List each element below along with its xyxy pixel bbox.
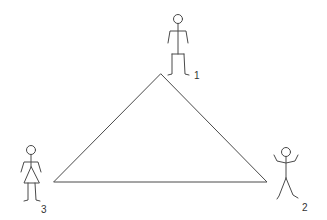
diagram-canvas: 1 2 3 [0, 0, 327, 220]
figure-1-right-leg [184, 54, 189, 75]
figure-2-left-leg [277, 178, 286, 199]
stick-figure-2: 2 [274, 148, 308, 214]
figure-2-head [282, 148, 291, 157]
figure-1-left-leg [168, 54, 172, 75]
stick-figure-1: 1 [168, 15, 200, 82]
figure-3-head [27, 146, 36, 155]
figure-3-right-leg [35, 183, 40, 201]
figure-3-left-leg [24, 183, 28, 201]
figure-1-label: 1 [194, 70, 200, 81]
triangle [54, 74, 267, 182]
figure-3-skirt [24, 167, 39, 183]
stick-figure-3: 3 [21, 146, 47, 216]
figure-2-right-leg [286, 178, 298, 198]
figure-1-head [174, 15, 183, 24]
figure-2-label: 2 [302, 202, 308, 213]
figure-3-label: 3 [41, 204, 47, 215]
